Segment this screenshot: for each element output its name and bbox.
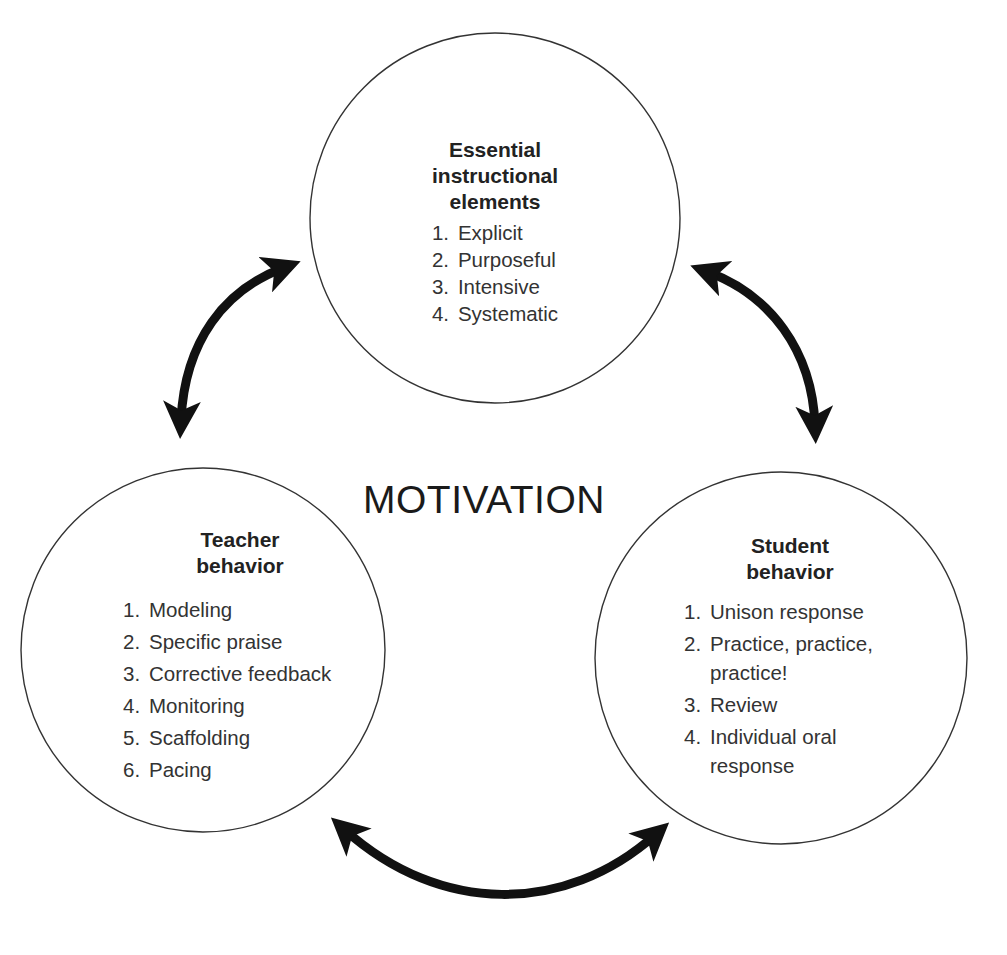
- heading-line: Student: [665, 533, 915, 559]
- item-text: Specific praise: [149, 626, 331, 658]
- item-text: Purposeful: [458, 246, 558, 273]
- list-item: 2.Practice, practice, practice!: [684, 629, 914, 687]
- item-text: Individual oral response: [710, 722, 914, 780]
- list-item: 1.Modeling: [123, 594, 331, 626]
- list-item: 6.Pacing: [123, 754, 331, 786]
- item-text: Review: [710, 690, 914, 719]
- item-number: 2.: [432, 246, 458, 273]
- list-item: 5.Scaffolding: [123, 722, 331, 754]
- item-number: 3.: [684, 690, 710, 719]
- item-number: 1.: [432, 219, 458, 246]
- item-text: Corrective feedback: [149, 658, 331, 690]
- item-text: Scaffolding: [149, 722, 331, 754]
- list-item: 2.Purposeful: [432, 246, 558, 273]
- item-number: 1.: [123, 594, 149, 626]
- item-number: 1.: [684, 597, 710, 626]
- item-text: Modeling: [149, 594, 331, 626]
- node-heading: Teacher behavior: [100, 527, 380, 579]
- list-item: 3.Intensive: [432, 273, 558, 300]
- item-number: 5.: [123, 722, 149, 754]
- node-teacher-behavior: Teacher behavior: [100, 527, 380, 579]
- item-number: 4.: [684, 722, 710, 780]
- list-item: 1.Unison response: [684, 597, 914, 626]
- item-text: Pacing: [149, 754, 331, 786]
- double-arrow-icon-top-left: [181, 268, 283, 420]
- item-text: Intensive: [458, 273, 558, 300]
- list-item: 2.Specific praise: [123, 626, 331, 658]
- item-text: Explicit: [458, 219, 558, 246]
- node-heading: Essential instructional elements: [380, 137, 610, 215]
- heading-line: behavior: [665, 559, 915, 585]
- node-item-list-student: 1.Unison response 2.Practice, practice, …: [684, 597, 914, 780]
- heading-line: elements: [380, 189, 610, 215]
- list-item: 4.Individual oral response: [684, 722, 914, 780]
- item-text: Monitoring: [149, 690, 331, 722]
- double-arrow-icon-top-right: [708, 272, 815, 425]
- node-essential-elements: Essential instructional elements 1.Expli…: [380, 137, 610, 327]
- item-number: 4.: [123, 690, 149, 722]
- node-item-list: 1.Explicit 2.Purposeful 3.Intensive 4.Sy…: [432, 219, 558, 327]
- item-text: Unison response: [710, 597, 914, 626]
- item-number: 3.: [432, 273, 458, 300]
- node-item-list-teacher: 1.Modeling 2.Specific praise 3.Correctiv…: [123, 594, 331, 786]
- heading-line: Teacher: [100, 527, 380, 553]
- node-heading: Student behavior: [665, 533, 915, 585]
- item-text: Practice, practice, practice!: [710, 629, 914, 687]
- node-student-behavior: Student behavior: [665, 533, 915, 585]
- item-number: 2.: [684, 629, 710, 687]
- item-number: 4.: [432, 300, 458, 327]
- item-text: Systematic: [458, 300, 558, 327]
- list-item: 3.Corrective feedback: [123, 658, 331, 690]
- double-arrow-icon-bottom: [345, 830, 655, 894]
- item-number: 2.: [123, 626, 149, 658]
- heading-line: instructional: [380, 163, 610, 189]
- list-item: 4.Monitoring: [123, 690, 331, 722]
- list-item: 3.Review: [684, 690, 914, 719]
- item-number: 3.: [123, 658, 149, 690]
- heading-line: Essential: [380, 137, 610, 163]
- list-item: 4.Systematic: [432, 300, 558, 327]
- center-label: MOTIVATION: [363, 478, 605, 522]
- list-item: 1.Explicit: [432, 219, 558, 246]
- item-number: 6.: [123, 754, 149, 786]
- heading-line: behavior: [100, 553, 380, 579]
